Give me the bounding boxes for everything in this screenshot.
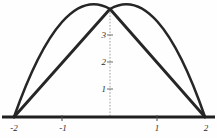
y-tick-label-2: 2: [97, 58, 106, 67]
x-tick-label-minus-1: -1: [59, 124, 67, 133]
x-tick-label-1: 1: [155, 124, 160, 133]
parabola-triangle-plot: [0, 0, 217, 138]
y-tick-label-1: 1: [97, 85, 106, 94]
x-tick-label-2: 2: [204, 124, 209, 133]
x-tick-label-minus-2: -2: [10, 124, 18, 133]
figure-container: -2 -1 1 2 1 2 3: [0, 0, 217, 138]
y-tick-label-3: 3: [97, 31, 106, 40]
